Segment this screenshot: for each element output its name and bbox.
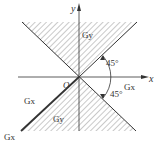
y-axis-arrow-icon	[77, 3, 81, 11]
left-boundary-label: Gx	[24, 96, 35, 106]
lower-angle-label: 45°	[110, 89, 123, 99]
x-axis-arrow-icon	[141, 75, 149, 79]
x-axis-label: x	[148, 73, 154, 84]
upper-angle-label: 45°	[106, 58, 119, 68]
bottom-left-boundary-label: Gx	[4, 132, 15, 142]
lower-hatched-region	[21, 77, 136, 131]
coordinate-diagram: y x O Gy Gy Gx Gx Gx 45° 45°	[0, 0, 159, 153]
right-boundary-label: Gx	[124, 82, 135, 92]
y-axis-label: y	[70, 3, 76, 14]
origin-label: O	[63, 80, 70, 90]
upper-region-label: Gy	[82, 30, 93, 40]
upper-hatched-region	[22, 22, 137, 77]
lower-region-label: Gy	[53, 114, 64, 124]
